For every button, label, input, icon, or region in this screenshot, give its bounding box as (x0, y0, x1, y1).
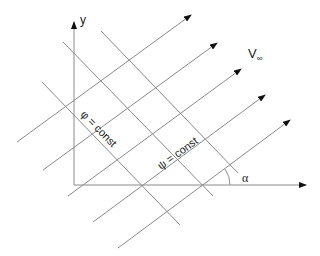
streamline-label: ψ = const (155, 134, 200, 171)
equipotential-label: φ = const (79, 108, 120, 149)
equipotential-lines (42, 31, 238, 225)
flow-diagram: y V∞ α φ = const ψ = const (0, 0, 320, 256)
free-stream-velocity-label: V∞ (248, 46, 263, 63)
equipotential-line-1 (42, 82, 180, 225)
alpha-arc (225, 169, 230, 185)
alpha-angle-label: α (242, 171, 249, 185)
y-axis-label: y (80, 13, 86, 27)
